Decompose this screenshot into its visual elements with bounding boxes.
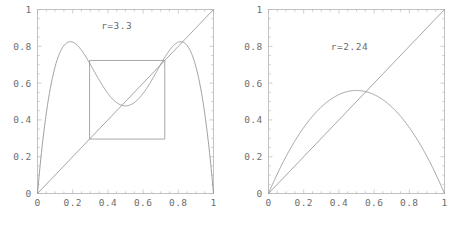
x-tick-label: 0.2 — [295, 197, 313, 208]
y-tick-label: 0.2 — [244, 151, 262, 162]
identity-diagonal-left — [38, 10, 214, 194]
y-tick-label: 0 — [25, 188, 31, 199]
identity-diagonal-right — [269, 10, 445, 194]
right-axis-labels: 00.20.40.60.8100.20.40.60.81 — [244, 4, 447, 208]
r-value-label-right: r=2.24 — [331, 41, 368, 52]
x-tick-label: 0.6 — [134, 197, 152, 208]
y-tick-label: 0.8 — [13, 41, 31, 52]
figure-container: 00.20.40.60.8100.20.40.60.81 r=3.3 00.20… — [0, 0, 464, 225]
x-tick-label: 0 — [265, 197, 271, 208]
right-plot-curves — [269, 10, 445, 194]
y-tick-label: 0.6 — [13, 78, 31, 89]
y-tick-label: 1 — [256, 4, 262, 15]
left-axis-labels: 00.20.40.60.8100.20.40.60.81 — [13, 4, 216, 208]
x-tick-label: 0.8 — [169, 197, 187, 208]
plot-panel-right: 00.20.40.60.8100.20.40.60.81 r=2.24 — [232, 0, 464, 225]
x-tick-label: 1 — [441, 197, 447, 208]
r-value-label-left: r=3.3 — [101, 20, 132, 31]
logistic-map-curve — [269, 90, 445, 193]
y-tick-label: 0.8 — [244, 41, 262, 52]
y-tick-label: 0.4 — [13, 114, 31, 125]
y-tick-label: 0.2 — [13, 151, 31, 162]
y-tick-label: 0.6 — [244, 78, 262, 89]
x-tick-label: 0.4 — [330, 197, 348, 208]
plot-panel-left: 00.20.40.60.8100.20.40.60.81 r=3.3 — [0, 0, 232, 225]
x-tick-label: 0.2 — [64, 197, 82, 208]
x-tick-label: 0.6 — [365, 197, 383, 208]
second-iterate-curve — [38, 42, 214, 194]
left-plot-curves — [38, 10, 214, 194]
x-tick-label: 0.8 — [400, 197, 418, 208]
y-tick-label: 1 — [25, 4, 31, 15]
x-tick-label: 0 — [34, 197, 40, 208]
y-tick-label: 0.4 — [244, 114, 262, 125]
y-tick-label: 0 — [256, 188, 262, 199]
x-tick-label: 1 — [210, 197, 216, 208]
x-tick-label: 0.4 — [99, 197, 117, 208]
